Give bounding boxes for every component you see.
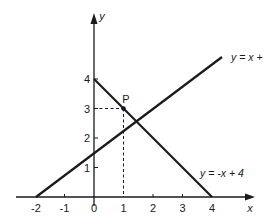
y-axis-arrow-icon [91, 13, 98, 24]
x-tick-label: 1 [120, 202, 126, 214]
graph-figure: -2 -1 0 1 2 3 4 1 2 3 4 x y P y = x + 2 … [0, 0, 264, 224]
x-tick-label: 0 [91, 202, 97, 214]
equation-label-1: y = x + 2 [230, 51, 264, 63]
y-tick-label: 4 [84, 73, 90, 85]
equation-label-2: y = -x + 4 [199, 167, 244, 179]
graph-canvas: -2 -1 0 1 2 3 4 1 2 3 4 x y P y = x + 2 … [0, 0, 264, 224]
y-tick-label: 2 [84, 132, 90, 144]
point-p-marker [121, 106, 126, 111]
x-axis-label: x [246, 202, 253, 214]
x-tick-label: 2 [150, 202, 156, 214]
y-axis-label: y [98, 10, 106, 22]
line-y-equals-minus-x-plus-4 [94, 79, 212, 197]
x-tick-label: -2 [31, 202, 41, 214]
y-tick-label: 1 [84, 162, 90, 174]
point-p-label: P [122, 93, 129, 105]
line-y-equals-x-plus-2 [36, 57, 222, 197]
y-tick-label: 3 [84, 103, 90, 115]
x-tick-label: 3 [179, 202, 185, 214]
x-tick-label: -1 [60, 202, 70, 214]
x-axis-arrow-icon [245, 194, 255, 201]
x-tick-label: 4 [209, 202, 215, 214]
